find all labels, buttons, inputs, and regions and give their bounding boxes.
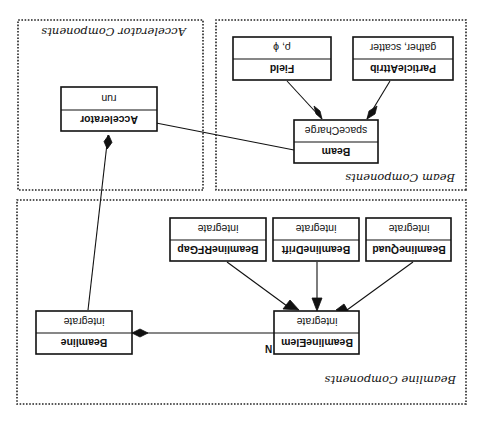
frame-label: Beamline Components bbox=[325, 373, 457, 387]
class-operation: ρ, ϕ bbox=[273, 42, 291, 54]
inheritance-arrow-icon bbox=[312, 298, 322, 311]
class-field[interactable]: Field ρ, ϕ bbox=[233, 37, 331, 80]
class-beamline-quad[interactable]: BeamlineQuad integrate bbox=[366, 218, 451, 261]
composition-diamond-icon bbox=[314, 106, 322, 119]
class-beamline-rfgap[interactable]: BeamlineRFGap integrate bbox=[170, 218, 266, 261]
class-beamline-drift[interactable]: BeamlineDrift integrate bbox=[273, 218, 359, 261]
frame-label: Accelerator Components bbox=[41, 25, 187, 39]
class-operation: integrate bbox=[295, 223, 336, 235]
edge-beam-accelerator bbox=[151, 122, 294, 150]
class-name: BeamlineElem bbox=[281, 337, 353, 349]
class-operation: integrate bbox=[388, 223, 429, 235]
frame-label: Beam Components bbox=[345, 171, 456, 185]
edge-quad-elem bbox=[347, 262, 413, 310]
class-name: Beam bbox=[322, 146, 351, 158]
class-name: Field bbox=[270, 63, 295, 75]
class-name: BeamlineQuad bbox=[372, 244, 446, 256]
class-beam[interactable]: Beam spaceCharge bbox=[294, 120, 378, 163]
composition-diamond-icon bbox=[103, 135, 112, 150]
class-beamline-elem[interactable]: BeamlineElem integrate bbox=[274, 311, 359, 354]
class-name: ParticleAttrib bbox=[370, 63, 436, 75]
class-operation: run bbox=[101, 93, 116, 105]
class-beamline[interactable]: Beamline integrate bbox=[36, 311, 132, 354]
class-operation: spaceCharge bbox=[305, 125, 368, 137]
composition-diamond-icon bbox=[367, 106, 377, 119]
class-name: BeamlineRFGap bbox=[177, 244, 258, 256]
edge-rfgap-elem bbox=[227, 262, 287, 306]
edge-beamline-accelerator bbox=[88, 135, 108, 310]
class-operation: integrate bbox=[296, 316, 337, 328]
class-operation: integrate bbox=[63, 316, 104, 328]
class-name: Accelerator bbox=[80, 114, 138, 126]
class-name: Beamline bbox=[60, 337, 107, 349]
uml-class-diagram: Beamline Components Beam Components Acce… bbox=[0, 0, 483, 424]
multiplicity-label: N bbox=[265, 344, 272, 355]
class-name: BeamlineDrift bbox=[281, 244, 350, 256]
diagram-canvas: Beamline Components Beam Components Acce… bbox=[0, 0, 483, 424]
composition-diamond-icon bbox=[132, 329, 148, 337]
class-operation: integrate bbox=[197, 223, 238, 235]
class-accelerator[interactable]: Accelerator run bbox=[61, 87, 157, 131]
class-particle-attrib[interactable]: ParticleAttrib gather, scatter bbox=[353, 37, 453, 80]
class-operation: gather, scatter bbox=[369, 42, 436, 54]
